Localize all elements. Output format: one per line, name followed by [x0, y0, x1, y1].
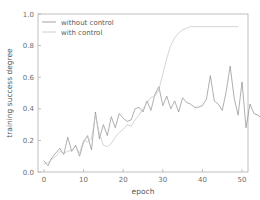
data-series [44, 27, 260, 166]
legend-label-0: without control [61, 19, 114, 27]
x-tick-label: 20 [119, 176, 128, 184]
x-tick-label: 10 [79, 176, 88, 184]
legend-label-1: with control [61, 29, 102, 37]
x-tick-label: 30 [158, 176, 167, 184]
series-line-with-control [44, 27, 238, 164]
plot-frame [38, 14, 248, 172]
x-tick-label: 0 [42, 176, 46, 184]
series-line-without-control [44, 66, 260, 166]
chart-legend: without controlwith control [42, 19, 114, 37]
axes: 010203040500.00.20.40.60.81.0 [23, 11, 248, 185]
y-tick-label: 0.8 [23, 42, 34, 50]
y-tick-label: 0.4 [23, 105, 35, 113]
y-tick-label: 0.0 [23, 169, 34, 177]
y-tick-label: 1.0 [23, 11, 34, 19]
y-tick-label: 0.6 [23, 74, 35, 82]
x-tick-label: 40 [198, 176, 207, 184]
x-axis-title: epoch [132, 187, 155, 196]
line-chart: 010203040500.00.20.40.60.81.0 without co… [0, 0, 260, 200]
y-axis-title: training success degree [5, 48, 14, 138]
y-tick-label: 0.2 [23, 137, 34, 145]
x-tick-label: 50 [238, 176, 247, 184]
chart-figure: 010203040500.00.20.40.60.81.0 without co… [0, 0, 260, 200]
